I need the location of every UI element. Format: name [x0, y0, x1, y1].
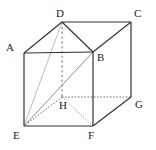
vertex-label-E: E	[13, 130, 20, 141]
edge-A-B	[24, 52, 93, 53]
vertex-label-A: A	[6, 42, 14, 53]
vertex-label-G: G	[135, 99, 143, 110]
vertex-label-D: D	[56, 8, 64, 19]
diagonal-D-B	[62, 22, 93, 52]
vertex-label-B: B	[97, 52, 104, 63]
vertex-label-H: H	[59, 100, 67, 111]
vertex-label-C: C	[134, 8, 141, 19]
cube-svg	[0, 0, 156, 150]
diagonal-E-B	[24, 52, 93, 126]
cube-figure: A B C D E F G H	[0, 0, 156, 150]
vertex-label-F: F	[88, 130, 94, 141]
edge-B-C	[93, 22, 131, 52]
edge-F-G	[93, 97, 131, 126]
